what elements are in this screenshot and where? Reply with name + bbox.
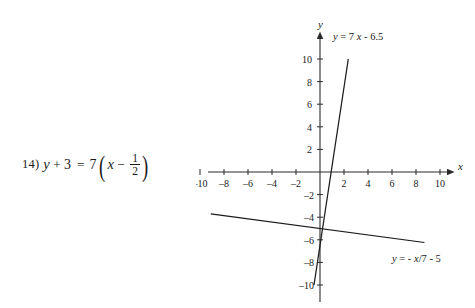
equation-fraction: 1 2 bbox=[130, 152, 140, 177]
equation-inner-variable: x bbox=[107, 156, 113, 173]
equation-minus-operator: − bbox=[117, 157, 124, 173]
line-shallow-label: y = - x/7 - 5 bbox=[391, 253, 441, 264]
x-tick-label: –10 bbox=[196, 178, 208, 189]
y-tick-label: 8 bbox=[307, 77, 312, 88]
equation-plus-operator: + bbox=[53, 157, 60, 173]
coordinate-graph: –10 –8 –6 –4 –2 2 4 6 8 10 10 8 6 4 2 –2… bbox=[196, 8, 475, 308]
line-steep-label: y = 7 x - 6.5 bbox=[332, 31, 383, 42]
problem-statement: 14) y + 3 = 7 ( x − 1 2 ) bbox=[22, 152, 150, 177]
x-tick-label: 8 bbox=[414, 178, 419, 189]
x-tick-label: 10 bbox=[435, 178, 445, 189]
worksheet-page: 14) y + 3 = 7 ( x − 1 2 ) bbox=[0, 0, 475, 308]
y-tick-label: 10 bbox=[302, 54, 312, 65]
equation-lhs-variable: y bbox=[43, 156, 49, 173]
x-tick-label: 6 bbox=[390, 178, 395, 189]
equation-equals-sign: = bbox=[77, 157, 84, 173]
y-tick-label: –8 bbox=[303, 257, 314, 268]
x-tick-label: –4 bbox=[266, 178, 277, 189]
fraction-denominator: 2 bbox=[130, 164, 140, 177]
y-tick-label: –10 bbox=[298, 280, 314, 291]
x-tick-label: –8 bbox=[218, 178, 229, 189]
equation-coefficient: 7 bbox=[89, 157, 96, 173]
y-tick-label: 4 bbox=[307, 122, 312, 133]
y-tick-label: 6 bbox=[307, 99, 312, 110]
x-tick-label: –6 bbox=[242, 178, 253, 189]
y-tick-label: –6 bbox=[303, 235, 314, 246]
equation-lhs-constant: 3 bbox=[64, 157, 71, 173]
fraction-numerator: 1 bbox=[130, 152, 140, 164]
y-axis-label: y bbox=[317, 18, 323, 30]
problem-number: 14) bbox=[22, 157, 39, 172]
x-tick-label: 2 bbox=[342, 178, 347, 189]
x-axis-label: x bbox=[457, 160, 463, 172]
line-shallow bbox=[211, 214, 425, 243]
x-tick-label: –2 bbox=[290, 178, 301, 189]
y-tick-label: –4 bbox=[303, 212, 314, 223]
x-tick-label: 4 bbox=[366, 178, 371, 189]
y-tick-label: –2 bbox=[303, 190, 314, 201]
y-tick-label: 2 bbox=[307, 144, 312, 155]
